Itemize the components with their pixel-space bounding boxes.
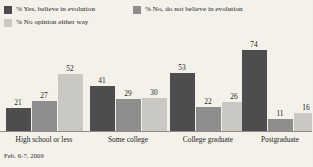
- legend-label-yes: % Yes, believe in evolution: [16, 5, 95, 14]
- chart-footnote: Feb. 6-7, 2009: [4, 151, 44, 160]
- bar-yes: 41: [90, 34, 115, 131]
- bar-no: 27: [32, 34, 57, 131]
- bar-value-label: 53: [170, 64, 195, 72]
- bar-group: 741116: [248, 34, 312, 131]
- category-label: Some college: [88, 134, 168, 148]
- category-label: College graduate: [168, 134, 248, 148]
- legend-row-1: % Yes, believe in evolution % No, do not…: [4, 3, 308, 16]
- bar-group: 412930: [88, 34, 168, 131]
- bar-no-opinion: 30: [142, 34, 167, 131]
- bar-rect-no: [268, 119, 293, 131]
- bar-rect-no-opinion: [142, 98, 167, 131]
- bar-yes: 53: [170, 34, 195, 131]
- plot-area: 212752412930532226741116: [0, 34, 312, 131]
- legend-swatch-no-opinion-icon: [4, 19, 12, 27]
- bar-no-opinion: 52: [58, 34, 83, 131]
- legend-label-no-opinion: % No opinion either way: [16, 18, 88, 27]
- bar-group-bars: 212752: [5, 34, 83, 131]
- legend-item-no-opinion: % No opinion either way: [4, 16, 133, 29]
- bar-value-label: 21: [6, 99, 31, 107]
- bar-rect-no-opinion: [294, 113, 313, 131]
- legend-label-no: % No, do not believe in evolution: [145, 5, 243, 14]
- legend-item-yes: % Yes, believe in evolution: [4, 3, 133, 16]
- bar-rect-yes: [170, 73, 195, 131]
- bar-value-label: 74: [242, 41, 267, 49]
- bar-value-label: 16: [294, 104, 313, 112]
- legend-row-2: % No opinion either way: [4, 16, 308, 29]
- bar-value-label: 52: [58, 65, 83, 73]
- bar-group-bars: 741116: [241, 34, 312, 131]
- category-label: High school or less: [0, 134, 88, 148]
- bar-yes: 21: [6, 34, 31, 131]
- bar-value-label: 41: [90, 77, 115, 85]
- bar-group: 212752: [0, 34, 88, 131]
- bar-rect-no: [32, 101, 57, 131]
- bar-rect-yes: [6, 108, 31, 131]
- bar-no: 11: [268, 34, 293, 131]
- bar-value-label: 11: [268, 110, 293, 118]
- bar-group-bars: 532226: [169, 34, 247, 131]
- bar-group: 532226: [168, 34, 248, 131]
- bar-no: 29: [116, 34, 141, 131]
- bar-no: 22: [196, 34, 221, 131]
- legend-item-no: % No, do not believe in evolution: [133, 3, 243, 16]
- bar-rect-no: [116, 99, 141, 131]
- bar-value-label: 27: [32, 92, 57, 100]
- bar-value-label: 29: [116, 90, 141, 98]
- bar-groups: 212752412930532226741116: [0, 34, 312, 131]
- bar-value-label: 30: [142, 89, 167, 97]
- bar-rect-yes: [90, 86, 115, 131]
- x-axis-category-labels: High school or lessSome collegeCollege g…: [0, 134, 312, 148]
- bar-value-label: 22: [196, 98, 221, 106]
- bar-group-bars: 412930: [89, 34, 167, 131]
- legend-swatch-no-icon: [133, 6, 141, 14]
- category-label: Postgraduate: [248, 134, 312, 148]
- bar-rect-no: [196, 107, 221, 131]
- bar-rect-no-opinion: [58, 74, 83, 131]
- bar-yes: 74: [242, 34, 267, 131]
- bar-rect-yes: [242, 50, 267, 131]
- legend-swatch-yes-icon: [4, 6, 12, 14]
- x-axis-line: [0, 131, 312, 132]
- chart-legend: % Yes, believe in evolution % No, do not…: [4, 3, 308, 29]
- bar-no-opinion: 16: [294, 34, 313, 131]
- evolution-belief-bar-chart: % Yes, believe in evolution % No, do not…: [0, 0, 312, 167]
